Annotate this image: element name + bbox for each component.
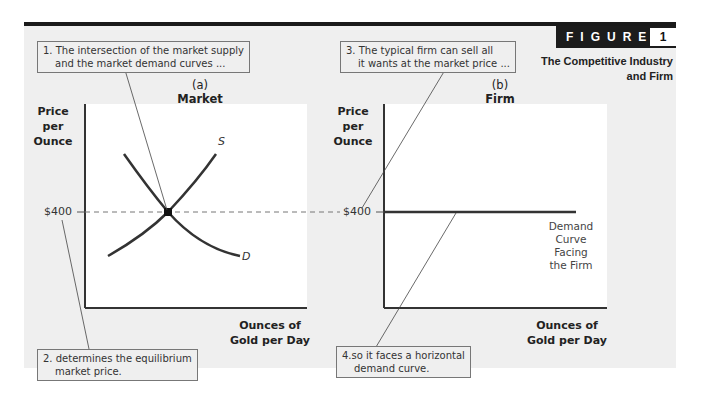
callout-3-leader	[362, 70, 445, 208]
callout-line: 4.so it faces a horizontal	[342, 349, 465, 362]
callout-line: 2. determines the equilibrium	[43, 352, 192, 365]
callout-1: 1. The intersection of the market supply…	[37, 41, 250, 73]
callout-3: 3. The typical firm can sell all it want…	[340, 41, 516, 73]
callout-4: 4.so it faces a horizontal demand curve.	[336, 346, 471, 378]
equilibrium-point	[164, 208, 172, 216]
callout-2: 2. determines the equilibrium market pri…	[37, 349, 198, 381]
demand-curve	[124, 154, 240, 256]
callout-line: market price.	[43, 365, 192, 378]
callout-4-leader	[376, 213, 456, 347]
callout-1-leader	[125, 70, 167, 210]
callout-line: 1. The intersection of the market supply	[43, 44, 244, 57]
callout-line: 3. The typical firm can sell all	[346, 44, 510, 57]
callout-line: demand curve.	[342, 362, 465, 375]
callout-line: and the market demand curves ...	[43, 57, 244, 70]
callout-line: it wants at the market price ...	[346, 57, 510, 70]
